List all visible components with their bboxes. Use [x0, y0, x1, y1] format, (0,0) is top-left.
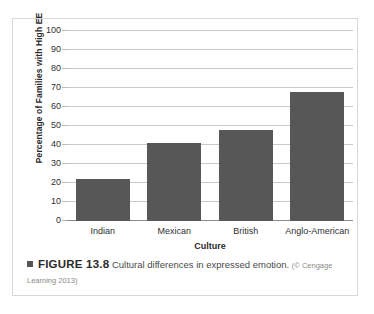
bar	[147, 143, 201, 221]
bar	[219, 130, 273, 221]
y-tick-label-70: 70	[51, 82, 61, 92]
x-axis-title: Culture	[67, 241, 353, 251]
y-tick-label-60: 60	[51, 101, 61, 111]
x-tick-label: Mexican	[157, 226, 191, 236]
y-tick-label-50: 50	[51, 120, 61, 130]
bar-group: Anglo-American	[282, 31, 354, 221]
y-tick-label-20: 20	[51, 177, 61, 187]
figure-caption: FIGURE 13.8 Cultural differences in expr…	[27, 257, 345, 288]
y-tick-label-40: 40	[51, 139, 61, 149]
square-bullet-icon	[27, 261, 33, 267]
bar-group: Indian	[67, 31, 139, 221]
y-tick-label-0: 0	[56, 215, 61, 225]
bar-group: British	[210, 31, 282, 221]
x-tick-label: British	[233, 226, 258, 236]
x-tick-label: Indian	[90, 226, 115, 236]
plot-area: 0102030405060708090100 IndianMexicanBrit…	[67, 31, 353, 221]
bar-group: Mexican	[139, 31, 211, 221]
bar-series: IndianMexicanBritishAnglo-American	[67, 31, 353, 221]
figure-number-label: FIGURE 13.8	[38, 258, 109, 270]
bar	[76, 179, 130, 221]
figure-panel: Percentage of Families with High EE 0102…	[12, 18, 358, 296]
y-axis-title: Percentage of Families with High EE	[34, 8, 44, 168]
y-tick-label-90: 90	[51, 44, 61, 54]
bar-chart: Percentage of Families with High EE 0102…	[13, 19, 359, 237]
y-tick-label-30: 30	[51, 158, 61, 168]
y-tick-label-10: 10	[51, 196, 61, 206]
y-tick-label-100: 100	[46, 25, 61, 35]
y-tick-label-80: 80	[51, 63, 61, 73]
bar	[290, 92, 344, 221]
figure-caption-text: Cultural differences in expressed emotio…	[112, 259, 289, 270]
x-tick-label: Anglo-American	[285, 226, 349, 236]
